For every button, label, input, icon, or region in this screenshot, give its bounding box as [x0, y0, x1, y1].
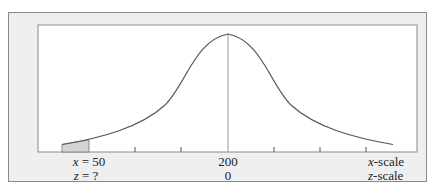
- mean-x-label: 200: [218, 155, 238, 168]
- marked-z-label: z = ?: [74, 169, 99, 182]
- marked-x-label: x = 50: [73, 155, 106, 168]
- z-scale-label: z-scale: [368, 169, 403, 182]
- mean-z-label: 0: [225, 169, 232, 182]
- x-scale-label: x-scale: [368, 155, 404, 168]
